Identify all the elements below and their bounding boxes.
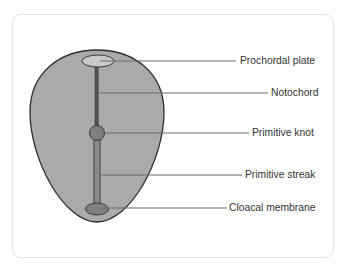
label-primitive-knot: Primitive knot (252, 127, 314, 139)
label-cloacal-membrane: Cloacal membrane (229, 202, 315, 214)
label-prochordal-plate: Prochordal plate (240, 55, 315, 67)
label-notochord: Notochord (271, 87, 319, 99)
primitive-knot-shape (90, 126, 105, 141)
label-primitive-streak: Primitive streak (245, 169, 315, 181)
notochord-shape (95, 67, 98, 127)
primitive-streak-shape (94, 139, 100, 205)
cloacal-membrane-shape (86, 203, 109, 215)
